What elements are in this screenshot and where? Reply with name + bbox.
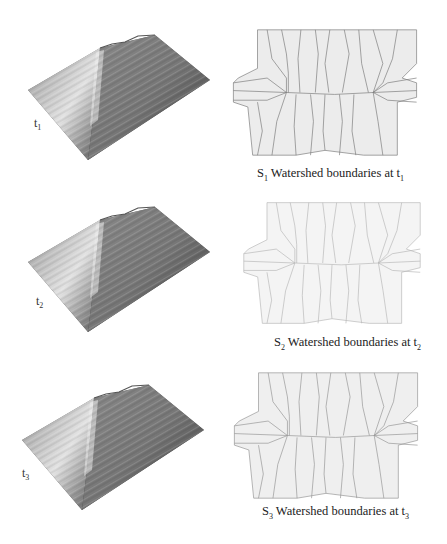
panel-t3: t3 S3 Watershed boundaries at t3 [0,360,447,544]
watershed-boundaries-map [237,198,427,328]
figure-caption: S3 Watershed boundaries at t3 [262,504,409,521]
panel-t2: t2 S2 Watershed boundaries at t2 [0,180,447,360]
time-label: t1 [34,116,41,132]
panel-t1: t1 S1 Watershed boundaries at t1 [0,0,447,180]
terrain-surface-image [0,172,220,352]
figure-caption: S2 Watershed boundaries at t2 [274,335,421,352]
terrain-surface-image [0,0,220,180]
watershed-boundaries-map [225,25,425,160]
time-label: t2 [36,294,43,310]
terrain-surface-image [0,350,214,530]
time-label: t3 [22,466,29,482]
watershed-boundaries-map [226,368,426,503]
